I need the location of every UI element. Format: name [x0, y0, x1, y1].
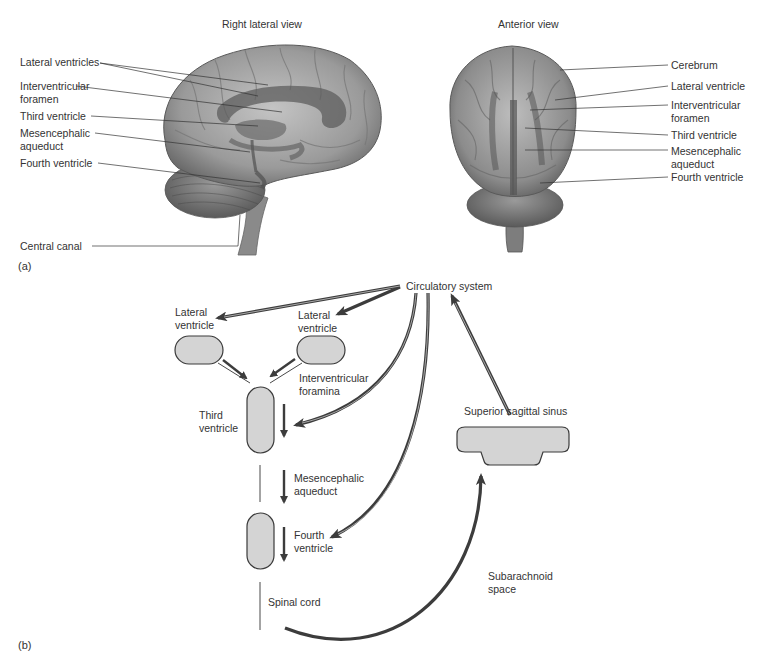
- node-lateral-ventricle-left: Lateral ventricle: [175, 306, 214, 332]
- node-interventricular-foramina: Interventricular foramina: [299, 372, 368, 398]
- node-subarachnoid-space: Subarachnoid space: [488, 570, 553, 596]
- node-third-ventricle: Third ventricle: [199, 409, 238, 435]
- label-line: Subarachnoid: [488, 570, 553, 583]
- label-line: Lateral: [175, 306, 214, 319]
- label-line: Third: [199, 409, 238, 422]
- third-ventricle-shape: [247, 387, 274, 453]
- superior-sagittal-sinus-shape: [457, 427, 569, 465]
- node-mesencephalic-aqueduct: Mesencephalic aqueduct: [294, 472, 364, 498]
- part-label-b: (b): [18, 639, 31, 651]
- label-line: ventricle: [298, 322, 337, 335]
- node-lateral-ventricle-right: Lateral ventricle: [298, 309, 337, 335]
- label-line: aqueduct: [294, 485, 364, 498]
- node-superior-sagittal-sinus: Superior sagittal sinus: [464, 405, 567, 418]
- label-line: ventricle: [175, 319, 214, 332]
- label-line: Lateral: [298, 309, 337, 322]
- label-line: Fourth: [294, 529, 333, 542]
- node-spinal-cord: Spinal cord: [268, 596, 321, 609]
- fourth-ventricle-shape: [247, 513, 274, 569]
- right-lateral-ventricle-shape: [297, 336, 345, 364]
- csf-flow-diagram: [0, 0, 766, 666]
- label-line: space: [488, 583, 553, 596]
- label-line: Mesencephalic: [294, 472, 364, 485]
- label-line: Interventricular: [299, 372, 368, 385]
- left-lateral-ventricle-shape: [175, 336, 223, 364]
- node-fourth-ventricle: Fourth ventricle: [294, 529, 333, 555]
- label-line: ventricle: [294, 542, 333, 555]
- node-circulatory-system: Circulatory system: [406, 280, 492, 293]
- label-line: foramina: [299, 385, 368, 398]
- label-line: ventricle: [199, 422, 238, 435]
